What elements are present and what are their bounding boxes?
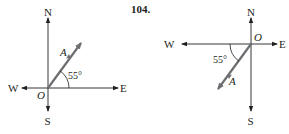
west-label: W: [8, 82, 19, 94]
south-label: S: [45, 115, 51, 127]
angle-label: 55°: [68, 70, 82, 81]
figure-103: N S E W O A 55°: [8, 6, 127, 127]
origin-label: O: [37, 89, 45, 101]
vector-label: A: [228, 75, 236, 87]
east-label: E: [279, 38, 286, 50]
south-label: S: [248, 115, 254, 127]
vector-label: A: [59, 46, 67, 58]
compass-diagrams: N S E W O A 55° 104. N S E W O A 55°: [0, 0, 289, 134]
angle-label: 55°: [213, 54, 227, 65]
east-label: E: [120, 82, 127, 94]
north-label: N: [44, 6, 52, 18]
west-label: W: [164, 38, 175, 50]
problem-number: 104.: [131, 3, 151, 15]
figure-104: 104. N S E W O A 55°: [131, 3, 286, 127]
origin-label: O: [254, 31, 262, 43]
angle-arc: [230, 44, 239, 61]
north-label: N: [247, 6, 255, 18]
